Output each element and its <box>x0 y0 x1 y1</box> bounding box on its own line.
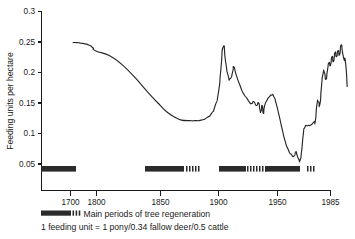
axes-group <box>42 12 331 191</box>
regeneration-band-dash <box>256 166 258 172</box>
legend-dash-swatch <box>76 211 78 216</box>
y-axis-title: Feeding units per hectare <box>5 52 15 150</box>
legend-swatch-group <box>41 211 80 216</box>
legend-solid-swatch <box>41 211 71 216</box>
regeneration-band-dash <box>313 166 315 172</box>
legend-dash-swatch <box>73 211 75 216</box>
regeneration-band-dash <box>247 166 249 172</box>
grazing-pressure-line-chart: 0.3 0.25 0.2 0.15 0.1 0.05 1700 1800 185… <box>0 0 355 239</box>
y-tick-label-0: 0.3 <box>24 7 36 16</box>
legend-footnote: 1 feeding unit = 1 pony/0.34 fallow deer… <box>41 222 229 232</box>
regeneration-band-solid <box>219 166 246 172</box>
regeneration-band-solid <box>145 166 184 172</box>
chart-figure: 0.3 0.25 0.2 0.15 0.1 0.05 1700 1800 185… <box>0 0 355 239</box>
regeneration-band-dash <box>310 166 312 172</box>
regeneration-band-dash <box>253 166 255 172</box>
regeneration-band-dash <box>262 166 264 172</box>
x-tick-label-0: 1700 <box>61 198 80 207</box>
grazing-pressure-curve <box>73 42 347 161</box>
x-tick-label-1: 1800 <box>87 198 106 207</box>
regeneration-band-dash <box>192 166 194 172</box>
y-tick-group: 0.3 0.25 0.2 0.15 0.1 0.05 <box>19 7 41 169</box>
x-tick-label-4: 1950 <box>268 198 287 207</box>
y-tick-label-3: 0.15 <box>19 99 35 108</box>
x-tick-label-5: 1985 <box>321 198 340 207</box>
y-tick-label-1: 0.25 <box>19 38 35 47</box>
regeneration-band-dash <box>189 166 191 172</box>
y-tick-label-2: 0.2 <box>24 68 36 77</box>
regeneration-band-solid <box>41 166 76 172</box>
x-tick-group: 1700 1800 1850 1900 1950 1985 <box>61 191 340 207</box>
legend-regeneration-label: Main periods of tree regeneration <box>84 209 211 219</box>
y-tick-label-4: 0.1 <box>24 129 36 138</box>
regeneration-band-dash <box>265 166 267 172</box>
regeneration-band-dash <box>195 166 197 172</box>
regeneration-band-dash <box>186 166 188 172</box>
regeneration-band-dash <box>250 166 252 172</box>
x-tick-label-3: 1900 <box>209 198 228 207</box>
regeneration-band-dash <box>259 166 261 172</box>
x-tick-label-2: 1850 <box>151 198 170 207</box>
regeneration-band-dash <box>307 166 309 172</box>
regeneration-band-solid <box>265 166 300 172</box>
legend-dash-swatch <box>79 211 81 216</box>
tree-regeneration-bands <box>41 166 315 172</box>
y-tick-label-5: 0.05 <box>19 160 35 169</box>
regeneration-band-dash <box>198 166 200 172</box>
